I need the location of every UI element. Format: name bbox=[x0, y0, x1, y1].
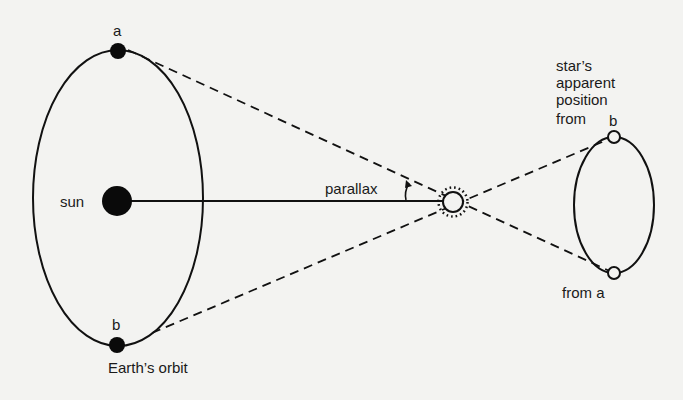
label-apparent-line3: position bbox=[556, 91, 608, 108]
star-icon bbox=[439, 188, 468, 217]
earth-position-a bbox=[110, 43, 126, 59]
label-earth-a: a bbox=[113, 22, 121, 39]
apparent-position-from-a bbox=[608, 267, 620, 279]
label-apparent-b: b bbox=[609, 112, 617, 129]
label-from-a: from a bbox=[562, 284, 605, 301]
label-earths-orbit: Earth’s orbit bbox=[108, 359, 188, 376]
label-sun: sun bbox=[60, 193, 84, 210]
parallax-arrowhead bbox=[405, 180, 412, 188]
label-parallax: parallax bbox=[325, 180, 378, 197]
label-apparent-line4: from bbox=[556, 110, 586, 127]
earth-position-b bbox=[109, 337, 125, 353]
label-apparent-line1: star’s bbox=[556, 57, 592, 74]
sun-icon bbox=[102, 186, 132, 216]
apparent-position-from-b bbox=[608, 131, 620, 143]
apparent-position-ellipse bbox=[574, 137, 654, 273]
label-apparent-line2: apparent bbox=[556, 74, 615, 91]
sightline-from-b bbox=[152, 137, 614, 333]
label-earth-b: b bbox=[112, 316, 120, 333]
